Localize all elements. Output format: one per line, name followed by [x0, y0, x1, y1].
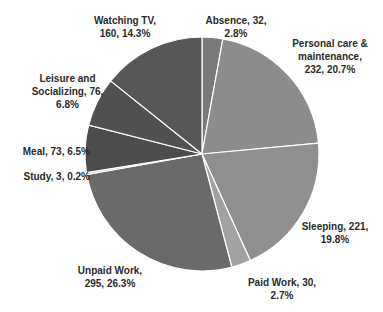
label-unpaid-work: Unpaid Work, 295, 26.3%: [60, 264, 160, 290]
label-watching-tv: Watching TV, 160, 14.3%: [85, 14, 165, 40]
label-leisure: Leisure and Socializing, 76, 6.8%: [20, 72, 115, 111]
label-personal-care: Personal care & maintenance, 232, 20.7%: [280, 37, 380, 76]
label-absence: Absence, 32, 2.8%: [196, 14, 276, 40]
label-sleeping: Sleeping, 221, 19.8%: [290, 220, 380, 246]
label-meal: Meal, 73, 6.5%: [5, 145, 90, 158]
label-paid-work: Paid Work, 30, 2.7%: [237, 276, 327, 302]
label-study: Study, 3, 0.2%: [5, 170, 90, 183]
